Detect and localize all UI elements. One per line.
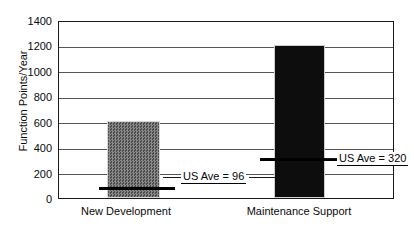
y-axis-tick-200: 200 xyxy=(4,168,52,180)
x-axis-label-maintenance-support: Maintenance Support xyxy=(229,205,369,217)
y-axis-tick-1200: 1200 xyxy=(4,40,52,52)
gridline-1200 xyxy=(59,47,393,48)
leader-line-new-development-right xyxy=(249,177,275,178)
y-axis-tick-1000: 1000 xyxy=(4,66,52,78)
annotation-us-ave-96: US Ave = 96 xyxy=(181,170,246,184)
y-axis-tick-1400: 1400 xyxy=(4,15,52,27)
chart-canvas: Function Points/Year 1400 1200 1000 800 … xyxy=(0,0,414,231)
gridline-1000 xyxy=(59,72,393,73)
y-axis-tick-0: 0 xyxy=(4,193,52,205)
y-axis-tick-800: 800 xyxy=(4,91,52,103)
y-axis-tick-600: 600 xyxy=(4,117,52,129)
annotation-us-ave-320: US Ave = 320 xyxy=(337,152,408,166)
x-axis-label-new-development: New Development xyxy=(66,205,186,217)
average-marker-new-development xyxy=(99,187,175,190)
plot-area: US Ave = 96 US Ave = 320 xyxy=(58,21,394,199)
gridline-800 xyxy=(59,98,393,99)
bar-maintenance-support xyxy=(274,45,325,198)
y-axis-tick-400: 400 xyxy=(4,142,52,154)
